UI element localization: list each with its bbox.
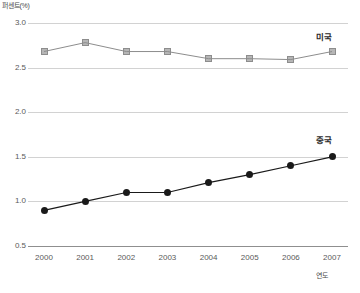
y-axis-tick-label: 3.0 [2,19,26,27]
series-label-us: 미국 [316,32,332,42]
y-axis-tick-label: 1.0 [2,197,26,205]
x-axis-tick-label: 2001 [65,253,105,262]
x-axis-tick-label: 2002 [106,253,146,262]
series-label-china: 중국 [316,135,332,145]
x-axis-tick-label: 2006 [271,253,311,262]
x-axis-tick-label: 2005 [230,253,270,262]
x-axis-tick-label: 2004 [189,253,229,262]
y-axis-tick-label: 0.5 [2,242,26,250]
series-line [44,157,332,211]
y-axis-tick-label: 2.0 [2,108,26,116]
line-chart: 퍼센트(%) 0.51.01.52.02.53.0 20002001200220… [0,0,360,293]
x-axis-title: 연도 [316,271,328,280]
y-axis-tick-label: 1.5 [2,153,26,161]
series-line [44,43,332,60]
x-axis-tick-label: 2003 [147,253,187,262]
x-axis-tick-label: 2007 [312,253,352,262]
y-axis-tick-label: 2.5 [2,64,26,72]
x-axis-tick-label: 2000 [24,253,64,262]
series-lines [0,0,360,293]
